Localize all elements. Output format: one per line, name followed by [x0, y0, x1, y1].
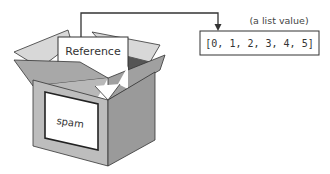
list-caption: (a list value)	[249, 15, 308, 26]
reference-diagram: Reference spam (a list value) [0, 1, 2, …	[0, 0, 330, 174]
arrowhead-icon	[215, 24, 222, 31]
reference-card-label: Reference	[65, 45, 121, 58]
list-value-text: [0, 1, 2, 3, 4, 5]	[205, 38, 313, 49]
list-value-box: [0, 1, 2, 3, 4, 5]	[200, 31, 319, 55]
